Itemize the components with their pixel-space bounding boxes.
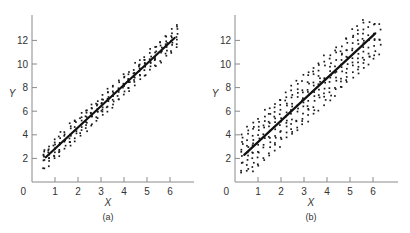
data-point [69,122,71,124]
data-point [74,141,76,143]
data-point [97,111,99,113]
x-tick-label: 1 [255,186,261,197]
data-point [357,58,359,60]
data-point [253,126,255,128]
data-point [329,58,331,60]
data-point [341,71,343,73]
data-point [323,55,325,57]
data-point [58,155,60,157]
data-point [43,155,45,157]
data-point [268,152,270,154]
data-point [330,95,332,97]
data-point [58,149,60,151]
data-point [340,50,342,52]
data-point [263,125,265,127]
data-point [340,78,342,80]
data-point [363,62,365,64]
data-point [96,120,98,122]
data-point [90,112,92,114]
data-point [85,115,87,117]
data-point [240,151,242,153]
data-point [274,128,276,130]
data-point [85,124,87,126]
data-point [373,24,375,26]
x-tick-label: 6 [370,186,376,197]
data-point [362,57,364,59]
data-point [247,155,249,157]
data-point [165,40,167,42]
x-tick-label: 4 [121,186,127,197]
data-point [252,143,254,145]
data-point [54,138,56,140]
data-point [241,155,243,157]
data-point [290,89,292,91]
data-point [352,77,354,79]
x-tick-label: 2 [278,186,284,197]
data-point [357,62,359,64]
x-tick-label: 5 [144,186,150,197]
data-point [308,71,310,73]
data-point [290,85,292,87]
data-point [63,131,65,133]
data-point [307,108,309,110]
data-point [335,52,337,54]
data-point [241,149,243,151]
data-point [351,49,353,51]
data-point [374,50,376,52]
data-point [251,166,253,168]
data-point [139,59,141,61]
data-point [297,129,299,131]
data-point [274,150,276,152]
data-point [160,45,162,47]
data-point [269,141,271,143]
data-point [128,87,130,89]
data-point [91,104,93,106]
data-point [307,89,309,91]
data-point [258,126,260,128]
data-point [369,56,371,58]
data-point [312,71,314,73]
data-point [118,81,120,83]
data-point [286,122,288,124]
data-point [313,109,315,111]
data-point [241,134,243,136]
data-point [307,81,309,83]
data-point [107,111,109,113]
panel-a-caption: (a) [102,212,113,222]
data-point [318,64,320,66]
data-point [257,157,259,159]
data-point [291,94,293,96]
data-point [358,73,360,75]
data-point [367,26,369,28]
data-point [257,151,259,153]
panel-a-scatter-plot: 24681012 123456 0 Y X (a) [9,15,194,222]
data-point [362,38,364,40]
data-point [251,152,253,154]
data-point [319,77,321,79]
data-point [318,70,320,72]
data-point [79,132,81,134]
data-point [85,127,87,129]
data-point [176,36,178,38]
y-tick-label: 4 [225,129,231,140]
data-point [274,103,276,105]
data-point [54,144,56,146]
data-point [43,151,45,153]
data-point [334,87,336,89]
panel-b-caption: (b) [305,212,316,222]
data-point [134,62,136,64]
data-point [268,155,270,157]
data-point [313,106,315,108]
data-point [352,42,354,44]
data-point [64,148,66,150]
data-point [95,116,97,118]
x-tick-label: 4 [324,186,330,197]
data-point [341,46,343,48]
panel-b-scatter-plot: 24681012 123456 0 Y X (b) [212,15,398,222]
data-point [112,90,114,92]
data-point [325,99,327,101]
data-point [279,124,281,126]
data-point [280,137,282,139]
data-point [170,35,172,37]
data-point [367,34,369,36]
